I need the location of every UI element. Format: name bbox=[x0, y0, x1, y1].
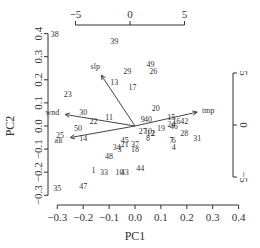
top-tick-label: 5 bbox=[182, 8, 188, 20]
observation-label: 4 bbox=[172, 143, 176, 152]
top-tick-label: 0 bbox=[127, 8, 133, 20]
x-tick-label: −0.2 bbox=[73, 211, 93, 223]
observation-label: 3 bbox=[117, 145, 121, 154]
observation-label: 43 bbox=[121, 168, 129, 177]
y-axis-label: PC2 bbox=[3, 116, 17, 137]
observation-label: 46 bbox=[170, 122, 178, 131]
x-tick-label: 0.0 bbox=[128, 211, 142, 223]
right-tick-label: −5 bbox=[238, 171, 250, 183]
x-tick-label: 0.4 bbox=[232, 211, 246, 223]
observation-label: 8 bbox=[146, 134, 150, 143]
observation-label: 38 bbox=[51, 30, 59, 39]
x-tick-label: −0.3 bbox=[47, 211, 67, 223]
y-tick-label: 0.2 bbox=[32, 73, 44, 87]
x-axis-label: PC1 bbox=[125, 229, 146, 243]
observation-label: 18 bbox=[131, 145, 139, 154]
y-tick-label: −0.3 bbox=[32, 185, 44, 205]
x-tick-label: 0.1 bbox=[154, 211, 168, 223]
observation-label: 30 bbox=[79, 108, 87, 117]
observation-label: 17 bbox=[128, 83, 136, 92]
observation-label: 13 bbox=[110, 78, 118, 87]
observation-label: 40 bbox=[144, 115, 152, 124]
variable-label-tmp: tmp bbox=[202, 106, 214, 115]
top-tick-label: −5 bbox=[70, 8, 82, 20]
y-tick-label: 0.4 bbox=[32, 26, 44, 40]
observation-label: 11 bbox=[105, 113, 113, 122]
variable-label-wnd: wnd bbox=[46, 108, 60, 117]
observation-label: 35 bbox=[53, 184, 61, 193]
observation-label: 26 bbox=[149, 67, 157, 76]
y-tick-label: −0.2 bbox=[32, 162, 44, 182]
observation-label: 19 bbox=[157, 124, 165, 133]
observation-label: 31 bbox=[193, 134, 201, 143]
observation-label: 28 bbox=[180, 129, 188, 138]
variable-label-alt: alt bbox=[55, 136, 64, 145]
observation-label: 23 bbox=[64, 90, 72, 99]
observation-label: 48 bbox=[105, 152, 113, 161]
y-tick-label: 0.0 bbox=[32, 119, 44, 133]
x-tick-label: 0.3 bbox=[206, 211, 220, 223]
observation-label: 2 bbox=[151, 129, 155, 138]
observation-label: 44 bbox=[136, 164, 144, 173]
observation-label: 21 bbox=[121, 140, 129, 149]
variable-label-slp: slp bbox=[91, 62, 100, 71]
y-tick-label: 0.3 bbox=[32, 49, 44, 63]
x-tick-label: −0.1 bbox=[99, 211, 119, 223]
observation-label: 1 bbox=[92, 166, 96, 175]
biplot-chart: −0.3−0.2−0.10.00.10.20.30.4−0.3−0.2−0.10… bbox=[0, 0, 260, 248]
y-tick-label: 0.1 bbox=[32, 96, 44, 110]
observation-label: 14 bbox=[79, 134, 87, 143]
right-tick-label: 5 bbox=[238, 70, 250, 76]
observation-label: 42 bbox=[180, 117, 188, 126]
observation-label: 20 bbox=[152, 104, 160, 113]
observation-label: 50 bbox=[74, 124, 82, 133]
observation-label: 33 bbox=[100, 168, 108, 177]
observation-label: 47 bbox=[79, 182, 87, 191]
observation-label: 29 bbox=[123, 67, 131, 76]
observation-label: 22 bbox=[90, 117, 98, 126]
right-tick-label: 0 bbox=[238, 122, 250, 128]
observation-label: 39 bbox=[110, 37, 118, 46]
x-tick-label: 0.2 bbox=[180, 211, 194, 223]
y-tick-label: −0.1 bbox=[32, 139, 44, 159]
